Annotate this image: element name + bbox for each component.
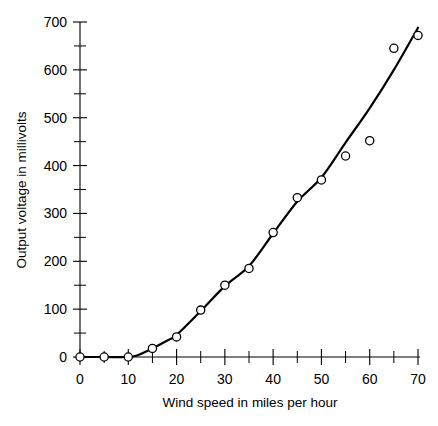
data-point-marker <box>390 44 398 52</box>
data-point-marker <box>148 344 156 352</box>
data-point-marker <box>245 264 253 272</box>
x-tick-label: 60 <box>362 371 378 387</box>
data-point-marker <box>172 333 180 341</box>
y-tick-label: 700 <box>44 14 68 30</box>
data-point-marker <box>197 306 205 314</box>
data-point-marker <box>317 176 325 184</box>
y-tick-label: 100 <box>44 301 68 317</box>
y-tick-label: 500 <box>44 110 68 126</box>
data-point-marker <box>414 31 422 39</box>
data-point-marker <box>341 152 349 160</box>
x-tick-label: 50 <box>314 371 330 387</box>
y-tick-label: 200 <box>44 253 68 269</box>
data-point-marker <box>293 194 301 202</box>
data-point-marker <box>366 137 374 145</box>
scatter-plot-canvas: 0100200300400500600700 010203040506070 W… <box>0 0 438 426</box>
y-tick-label: 0 <box>59 349 67 365</box>
data-point-marker <box>124 353 132 361</box>
x-tick-label: 20 <box>169 371 185 387</box>
y-axis-title: Output voltage in millivolts <box>14 111 29 268</box>
data-point-marker <box>269 228 277 236</box>
x-tick-label: 70 <box>410 371 426 387</box>
x-tick-label: 10 <box>120 371 136 387</box>
data-point-marker <box>221 281 229 289</box>
data-point-marker <box>100 353 108 361</box>
x-tick-label: 0 <box>76 371 84 387</box>
y-tick-label: 300 <box>44 205 68 221</box>
x-tick-label: 40 <box>265 371 281 387</box>
x-tick-label: 30 <box>217 371 233 387</box>
data-point-marker <box>76 353 84 361</box>
y-tick-label: 400 <box>44 158 68 174</box>
x-axis-title: Wind speed in miles per hour <box>163 395 338 410</box>
chart-figure: 0100200300400500600700 010203040506070 W… <box>0 0 438 426</box>
y-tick-label: 600 <box>44 62 68 78</box>
